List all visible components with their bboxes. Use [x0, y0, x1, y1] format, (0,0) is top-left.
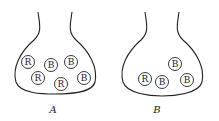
ball: B: [181, 74, 194, 87]
flask-a-label: A: [48, 104, 56, 115]
svg-text:B: B: [184, 75, 191, 85]
flask-b-label: B: [152, 104, 160, 115]
svg-text:R: R: [58, 79, 65, 89]
ball: B: [169, 58, 182, 71]
ball: R: [32, 72, 45, 85]
ball: R: [139, 73, 152, 86]
ball: B: [78, 72, 91, 85]
flask-a: R B B R R B A: [15, 12, 96, 115]
svg-text:B: B: [68, 57, 75, 67]
ball: B: [45, 59, 58, 72]
flasks-diagram: R B B R R B A B R B B B: [0, 0, 219, 121]
ball: R: [22, 56, 35, 69]
svg-text:R: R: [142, 74, 149, 84]
ball: R: [55, 78, 68, 91]
ball: B: [156, 76, 169, 89]
svg-text:B: B: [172, 59, 179, 69]
ball: B: [65, 56, 78, 69]
svg-text:B: B: [48, 60, 55, 70]
svg-text:R: R: [25, 57, 32, 67]
svg-text:R: R: [35, 73, 42, 83]
svg-text:B: B: [159, 77, 166, 87]
flask-b: B R B B B: [122, 12, 203, 115]
svg-text:B: B: [81, 73, 88, 83]
